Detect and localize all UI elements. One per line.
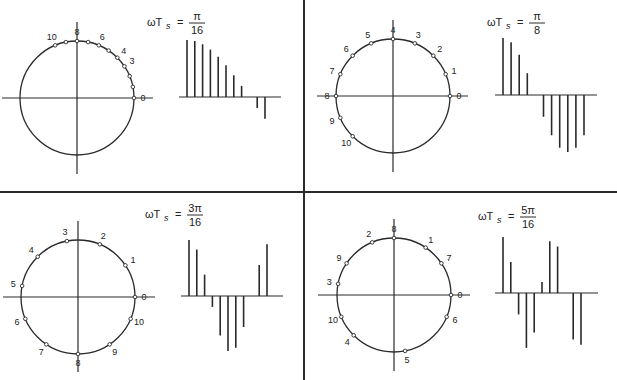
- point-label: 8: [391, 224, 396, 234]
- sample-point: [75, 39, 79, 43]
- panel-title: ωTs=π16: [147, 10, 205, 36]
- point-label: 4: [345, 337, 350, 347]
- point-label: 4: [390, 25, 395, 35]
- title-subscript: s: [164, 213, 169, 223]
- point-label: 1: [130, 255, 135, 265]
- sample-point: [370, 241, 374, 245]
- panel-title: ωTs=π8: [487, 10, 545, 36]
- unit-circle-sampling-figure: 0346810ωTs=π16012345678910ωTs=π801234567…: [0, 0, 617, 380]
- title-lhs: ωT: [487, 16, 503, 28]
- point-label: 5: [404, 355, 409, 365]
- point-label: 9: [112, 347, 117, 357]
- panel-top-right: 012345678910ωTs=π8: [317, 10, 597, 172]
- sample-point: [392, 236, 396, 240]
- title-equals: =: [517, 16, 523, 28]
- point-label: 10: [134, 317, 144, 327]
- sample-point: [53, 44, 57, 48]
- sample-point: [369, 42, 373, 46]
- point-label: 7: [446, 253, 451, 263]
- sample-point: [340, 315, 344, 319]
- point-label: 4: [121, 46, 126, 56]
- sample-point: [339, 116, 343, 120]
- sample-point: [444, 72, 448, 76]
- sample-point: [345, 262, 349, 266]
- sample-point: [339, 72, 343, 76]
- point-label: 7: [39, 347, 44, 357]
- point-label: 4: [29, 245, 34, 255]
- sample-point: [351, 54, 355, 58]
- sample-point: [440, 262, 444, 266]
- point-label: 9: [337, 253, 342, 263]
- point-label: 2: [437, 44, 442, 54]
- title-denominator: 16: [191, 24, 203, 36]
- sample-point: [131, 85, 135, 89]
- panel-bottom-right: 012345678910ωTs=5π16: [318, 204, 598, 371]
- title-lhs: ωT: [145, 208, 161, 220]
- sample-point: [336, 282, 340, 286]
- title-numerator: 3π: [188, 202, 202, 214]
- sample-point: [116, 56, 120, 60]
- panel-bottom-left: 012345678910ωTs=3π16: [3, 202, 283, 372]
- point-label: 6: [452, 315, 457, 325]
- title-equals: =: [177, 16, 183, 28]
- sample-point: [413, 42, 417, 46]
- panel-title: ωTs=5π16: [478, 204, 536, 230]
- panel-title: ωTs=3π16: [145, 202, 203, 228]
- sample-point: [133, 295, 137, 299]
- sample-point: [334, 94, 338, 98]
- title-denominator: 16: [522, 218, 534, 230]
- sample-point: [107, 49, 111, 53]
- sample-point: [424, 246, 428, 250]
- title-numerator: π: [193, 10, 201, 22]
- point-label: 1: [451, 66, 456, 76]
- point-label: 3: [63, 227, 68, 237]
- title-denominator: 8: [534, 24, 540, 36]
- sample-point: [20, 284, 24, 288]
- point-label: 3: [327, 277, 332, 287]
- point-label: 0: [141, 292, 146, 302]
- title-lhs: ωT: [478, 210, 494, 222]
- sample-point: [403, 349, 407, 353]
- point-label: 3: [129, 56, 134, 66]
- point-label: 10: [328, 315, 338, 325]
- sample-point: [124, 264, 128, 268]
- point-label: 8: [75, 358, 80, 368]
- point-label: 8: [324, 91, 329, 101]
- sample-point: [351, 135, 355, 139]
- title-numerator: π: [533, 10, 541, 22]
- sample-point: [352, 334, 356, 338]
- sample-point: [45, 343, 49, 347]
- sample-point: [132, 96, 136, 100]
- point-label: 10: [341, 138, 351, 148]
- sample-point: [449, 293, 453, 297]
- title-equals: =: [508, 210, 514, 222]
- point-label: 0: [457, 290, 462, 300]
- point-label: 6: [344, 44, 349, 54]
- sample-point: [76, 352, 80, 356]
- point-label: 7: [329, 66, 334, 76]
- sample-point: [36, 255, 40, 259]
- point-label: 2: [366, 229, 371, 239]
- point-label: 0: [140, 93, 145, 103]
- point-label: 1: [428, 235, 433, 245]
- point-label: 10: [47, 32, 57, 42]
- panel-dividers: [0, 0, 617, 380]
- point-label: 6: [100, 32, 105, 42]
- sample-point: [86, 40, 90, 44]
- point-label: 9: [329, 116, 334, 126]
- point-label: 3: [416, 30, 421, 40]
- sample-point: [391, 37, 395, 41]
- sample-point: [64, 40, 68, 44]
- title-lhs: ωT: [147, 16, 163, 28]
- sample-point: [128, 74, 132, 78]
- panel-top-left: 0346810ωTs=π16: [2, 10, 281, 174]
- point-label: 5: [11, 279, 16, 289]
- point-label: 2: [101, 231, 106, 241]
- point-label: 8: [74, 27, 79, 37]
- sample-point: [24, 317, 28, 321]
- title-denominator: 16: [189, 216, 201, 228]
- title-subscript: s: [166, 21, 171, 31]
- title-equals: =: [175, 208, 181, 220]
- point-label: 6: [14, 317, 19, 327]
- sample-point: [98, 243, 102, 247]
